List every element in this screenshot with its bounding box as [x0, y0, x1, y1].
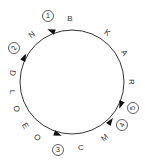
numbered-marker: 4 — [117, 120, 128, 131]
direction-arrows — [20, 27, 124, 139]
letter-label: K — [102, 27, 112, 38]
arrowhead-icon — [117, 100, 125, 109]
letter-label: D — [7, 69, 17, 76]
marker-number: 3 — [56, 146, 60, 153]
arrowhead-icon — [20, 52, 28, 62]
arrowhead-icon — [106, 116, 115, 126]
letter-label: R — [127, 79, 136, 85]
marker-number: 1 — [46, 12, 50, 19]
letter-label: O — [32, 132, 43, 143]
numbered-marker: 3 — [53, 145, 64, 156]
letter-label: M — [99, 132, 110, 143]
letter-label: N — [27, 29, 37, 40]
numbered-marker: 1 — [43, 11, 54, 22]
numbered-marker: 5 — [128, 103, 139, 114]
letter-label: O — [11, 105, 21, 113]
circular-diagram: BKARMCOEOLDN 12345 — [0, 0, 145, 160]
letter-label: E — [20, 121, 30, 130]
letter-label: B — [67, 14, 72, 23]
letter-label: C — [78, 143, 84, 152]
letter-label: A — [119, 48, 130, 58]
numbered-marker: 2 — [9, 43, 20, 54]
route-circle — [20, 30, 124, 134]
letter-label: L — [8, 90, 17, 95]
letter-labels: BKARMCOEOLDN — [7, 14, 135, 152]
marker-number: 5 — [129, 106, 136, 110]
